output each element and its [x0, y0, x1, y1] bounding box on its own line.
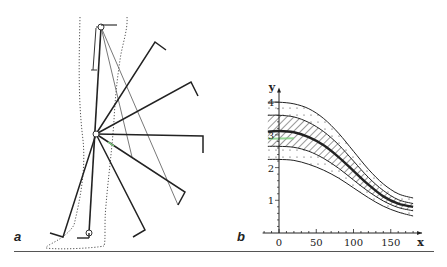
- thin-bar: [101, 27, 178, 205]
- y-axis-arrow-icon: [277, 87, 281, 92]
- swing-bar: [96, 82, 198, 134]
- band-chart: 0501001501234xy: [263, 81, 425, 249]
- swing-bars: [50, 27, 203, 237]
- swing-bar: [96, 134, 203, 153]
- knee-pivot-icon: [93, 131, 99, 137]
- y-tick-label: 2: [268, 163, 274, 174]
- x-tick-label: 50: [310, 237, 323, 248]
- leg-schematic: [46, 17, 203, 249]
- x-tick-label: 100: [344, 237, 363, 248]
- y-tick-label: 4: [268, 97, 274, 108]
- figure-canvas: 0501001501234xy: [0, 0, 447, 267]
- x-tick-label: 150: [381, 237, 400, 248]
- thin-bar: [101, 27, 132, 157]
- x-axis-label: x: [417, 236, 424, 249]
- y-tick-label: 1: [268, 195, 274, 206]
- figure-bottom-rule: [14, 251, 434, 252]
- y-axis-label: y: [268, 81, 276, 94]
- y-tick-label: 3: [268, 130, 274, 141]
- swing-bar: [96, 42, 166, 134]
- leg-outline-front: [104, 17, 127, 246]
- x-axis-arrow-icon: [417, 231, 422, 235]
- x-tick-label: 0: [276, 237, 282, 248]
